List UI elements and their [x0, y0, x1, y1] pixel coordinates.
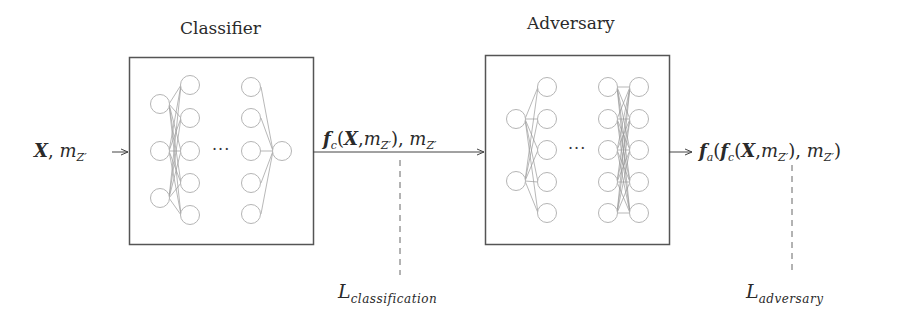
input-x: X	[34, 140, 48, 161]
output-m: m	[409, 128, 426, 149]
fa-arg-m-subscript: Z′	[824, 151, 834, 164]
classifier-hidden-layers-ellipsis: ···	[212, 140, 230, 159]
fc-arg-x: X	[741, 140, 755, 161]
classifier-output-label: fc(X,mZ′), mZ′	[323, 128, 437, 152]
fc-symbol: f	[720, 140, 728, 161]
adversary-title: Adversary	[527, 13, 615, 33]
input-label: X, mZ′	[34, 140, 87, 164]
loss-symbol: L	[338, 280, 351, 302]
classifier-edges-2	[261, 87, 273, 214]
fc-arg-m-subscript: Z′	[778, 151, 788, 164]
fc-arg-m: m	[364, 128, 381, 149]
adversary-output-label: fa(fc(X,mZ′), mZ′)	[699, 140, 841, 164]
paren-close-2: )	[834, 140, 841, 161]
fc-arg-m-subscript: Z′	[381, 139, 391, 152]
fc-symbol: f	[323, 128, 331, 149]
classifier-title: Classifier	[180, 18, 261, 38]
loss-symbol: L	[746, 280, 759, 302]
paren-close-1: ),	[788, 140, 806, 161]
paren-open: (	[337, 128, 344, 149]
adversary-loss-label: Ladversary	[746, 280, 823, 306]
adversary-hidden-layers-ellipsis: ···	[568, 139, 586, 158]
loss-subscript: adversary	[759, 292, 824, 306]
input-m: m	[59, 140, 76, 161]
output-m-subscript: Z′	[426, 139, 436, 152]
paren-close: ),	[391, 128, 409, 149]
input-m-subscript: Z′	[77, 151, 87, 164]
fa-arg-m: m	[807, 140, 824, 161]
input-separator: ,	[48, 140, 59, 161]
fc-arg-m: m	[761, 140, 778, 161]
loss-subscript: classification	[351, 292, 438, 306]
adversary-edges-1	[525, 87, 538, 213]
fa-symbol: f	[699, 140, 707, 161]
fc-arg-x: X	[344, 128, 358, 149]
classification-loss-label: Lclassification	[338, 280, 437, 306]
classifier-edges-1	[169, 85, 181, 215]
adversary-edges-2	[617, 87, 630, 213]
